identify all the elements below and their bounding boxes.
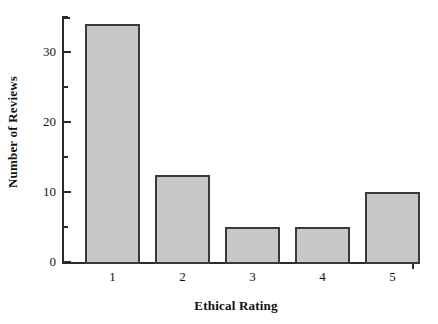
bar	[85, 24, 140, 264]
y-tick-label: 30	[43, 44, 56, 60]
y-tick-minor	[62, 226, 68, 228]
bar	[295, 227, 350, 264]
bar	[365, 192, 420, 264]
y-tick-minor	[62, 16, 68, 18]
bar-chart: Number of Reviews 0102030 12345 Ethical …	[0, 0, 438, 324]
x-tick-label: 1	[109, 269, 116, 285]
plot-area: 0102030 12345	[62, 17, 414, 264]
x-tick-label: 2	[179, 269, 186, 285]
y-tick-label: 0	[50, 254, 57, 270]
y-axis-title-text: Number of Reviews	[5, 76, 21, 188]
x-axis-title: Ethical Rating	[60, 298, 412, 314]
y-axis-title: Number of Reviews	[0, 0, 26, 264]
y-tick-label: 20	[43, 114, 56, 130]
y-tick-minor	[62, 86, 68, 88]
y-tick-mark	[62, 51, 71, 53]
x-tick-label: 5	[389, 269, 396, 285]
x-tick-label: 4	[319, 269, 326, 285]
x-tick-label: 3	[249, 269, 256, 285]
y-tick-mark	[62, 261, 71, 263]
y-tick-mark	[62, 121, 71, 123]
y-tick-mark	[62, 191, 71, 193]
y-tick-minor	[62, 156, 68, 158]
y-tick-label: 10	[43, 184, 56, 200]
bar	[155, 175, 210, 265]
bar	[225, 227, 280, 264]
